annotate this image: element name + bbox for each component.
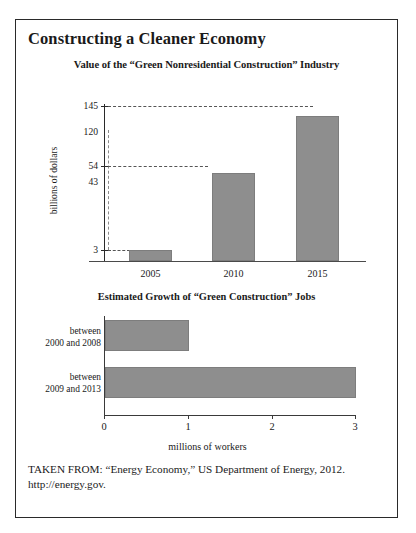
chart2-row-label-2-line2: 2009 and 2013 — [45, 384, 101, 394]
chart1-ytick-3: 3 — [93, 245, 98, 255]
chart2-bar-2009-2013 — [105, 367, 356, 398]
chart2-xtick-0: 0 — [94, 421, 114, 432]
chart1-xtick-2010: 2010 — [212, 268, 255, 279]
source-citation: TAKEN FROM: “Energy Economy,” US Departm… — [28, 462, 383, 492]
chart1-ytick-120: 120 — [84, 127, 98, 137]
chart1-xtick-2015: 2015 — [296, 268, 339, 279]
chart1-tickmark-54 — [101, 166, 108, 167]
chart2: between 2000 and 2008 between 2009 and 2… — [16, 310, 399, 460]
chart1: billions of dollars 145 120 54 43 3 — [16, 80, 399, 280]
chart1-ytick-54: 54 — [88, 161, 98, 171]
chart2-title: Estimated Growth of “Green Construction”… — [16, 291, 397, 302]
chart1-refline-54 — [108, 166, 208, 167]
chart1-tickmark-3 — [101, 250, 108, 251]
chart1-y-axis-label: billions of dollars — [48, 126, 59, 236]
chart2-tickmark-0 — [104, 415, 105, 419]
chart1-refline-3 — [108, 250, 130, 251]
chart2-row-label-1: between 2000 and 2008 — [0, 326, 101, 349]
chart1-axis-break-dash — [108, 130, 109, 250]
chart1-bar-2010 — [212, 173, 255, 261]
chart1-refline-145 — [108, 106, 313, 107]
chart1-title: Value of the “Green Nonresidential Const… — [16, 59, 397, 70]
chart1-y-axis-line — [104, 104, 105, 262]
chart2-tickmark-1 — [188, 415, 189, 419]
chart2-x-axis-line — [104, 415, 356, 416]
chart2-tickmark-3 — [355, 415, 356, 419]
figure-title: Constructing a Cleaner Economy — [28, 29, 266, 49]
figure-frame: Constructing a Cleaner Economy Value of … — [15, 19, 398, 518]
chart2-row-label-1-line1: between — [70, 326, 101, 336]
chart2-xtick-1: 1 — [178, 421, 198, 432]
chart2-bar-2000-2008 — [105, 320, 189, 351]
figure-page: Constructing a Cleaner Economy Value of … — [0, 0, 416, 533]
chart1-xtick-2005: 2005 — [129, 268, 172, 279]
chart2-row-label-2: between 2009 and 2013 — [0, 372, 101, 395]
chart1-x-axis-line — [89, 261, 366, 262]
chart2-xtick-2: 2 — [262, 421, 282, 432]
chart2-row-label-1-line2: 2000 and 2008 — [45, 338, 101, 348]
chart1-tickmark-145 — [101, 106, 108, 107]
source-url: http://energy.gov. — [28, 477, 383, 492]
chart2-xtick-3: 3 — [345, 421, 365, 432]
chart1-ytick-43: 43 — [88, 177, 98, 187]
chart1-ytick-145: 145 — [84, 101, 98, 111]
source-line-1: TAKEN FROM: “Energy Economy,” US Departm… — [28, 463, 345, 475]
chart1-bar-2005 — [129, 250, 172, 261]
chart2-x-axis-label: millions of workers — [16, 441, 399, 452]
chart2-tickmark-2 — [272, 415, 273, 419]
chart2-row-label-2-line1: between — [70, 372, 101, 382]
chart1-bar-2015 — [296, 116, 339, 261]
